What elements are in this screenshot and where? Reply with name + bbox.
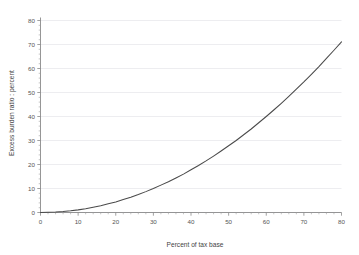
y-tick-label: 0 — [32, 209, 36, 216]
y-axis-tick-labels: 01020304050607080 — [28, 17, 35, 216]
x-axis-title: Percent of tax base — [167, 241, 224, 248]
x-axis-ticks — [41, 213, 342, 216]
y-tick-label: 20 — [28, 161, 35, 168]
x-tick-label: 20 — [112, 218, 119, 225]
x-tick-label: 10 — [75, 218, 82, 225]
x-tick-label: 80 — [338, 218, 345, 225]
chart-canvas: 01020304050607080 01020304050607080 Perc… — [0, 0, 359, 255]
y-tick-label: 60 — [28, 65, 35, 72]
x-tick-label: 0 — [39, 218, 43, 225]
y-tick-label: 50 — [28, 89, 35, 96]
x-tick-label: 60 — [263, 218, 270, 225]
y-tick-label: 30 — [28, 137, 35, 144]
y-axis-title: Excess burden ratio : percent — [8, 70, 16, 156]
x-tick-label: 30 — [150, 218, 157, 225]
y-tick-label: 40 — [28, 113, 35, 120]
data-series-line — [41, 42, 342, 213]
chart-figure: 01020304050607080 01020304050607080 Perc… — [0, 0, 359, 255]
x-tick-label: 50 — [225, 218, 232, 225]
gridlines — [41, 21, 342, 213]
y-tick-label: 80 — [28, 17, 35, 24]
y-tick-label: 70 — [28, 41, 35, 48]
y-tick-label: 10 — [28, 185, 35, 192]
x-tick-label: 40 — [188, 218, 195, 225]
x-axis-tick-labels: 01020304050607080 — [39, 218, 346, 225]
x-tick-label: 70 — [300, 218, 307, 225]
y-axis-ticks — [37, 21, 40, 213]
